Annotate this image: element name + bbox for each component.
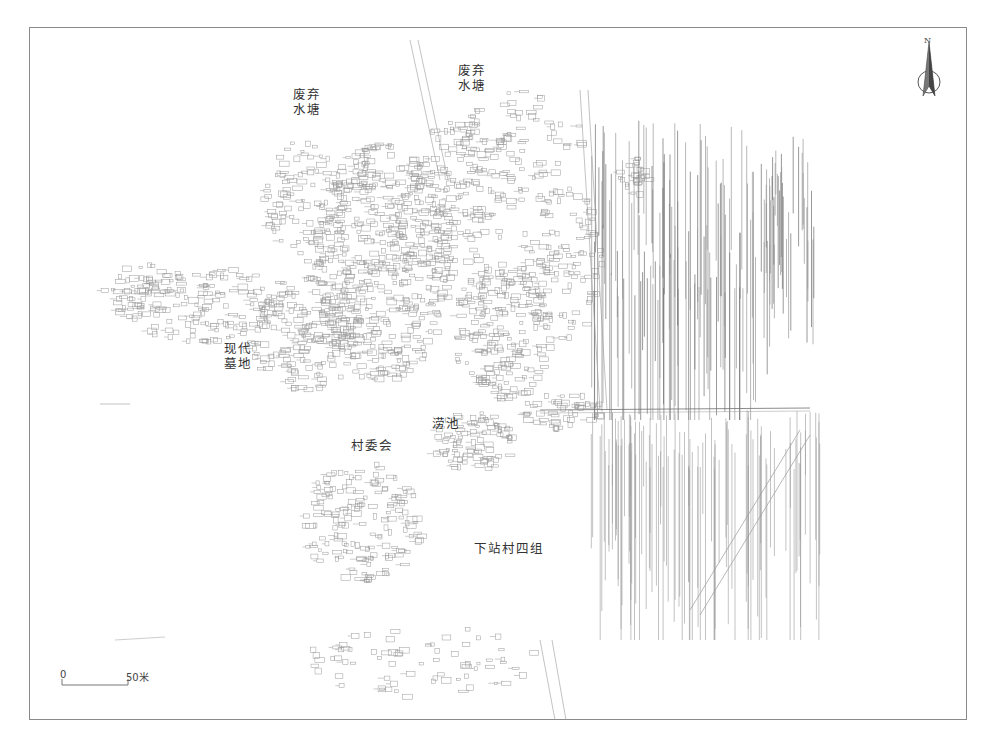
map-label-village-committee: 村委会 [351,438,393,453]
scale-bar-line [61,668,141,688]
map-label-laochi: 涝池 [432,416,460,431]
map-label-modern-cemetery: 现代 墓地 [224,341,252,371]
north-arrow-icon [914,38,944,102]
map-label-xiazhan-group-4: 下站村四组 [474,541,544,556]
map-label-abandoned-pond-west: 废弃 水塘 [293,87,321,117]
site-plan-linework [0,0,986,746]
map-label-abandoned-pond-north: 废弃 水塘 [458,63,486,93]
